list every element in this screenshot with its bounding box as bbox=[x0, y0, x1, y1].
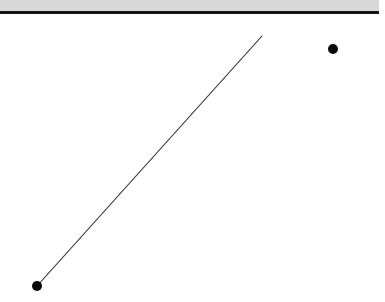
drawing-canvas[interactable] bbox=[0, 14, 385, 302]
diagonal-line-segment[interactable] bbox=[37, 36, 262, 286]
canvas-svg bbox=[0, 0, 385, 302]
app-root bbox=[0, 0, 385, 302]
anchor-point-lower-left[interactable] bbox=[32, 281, 42, 291]
isolated-point-upper-right[interactable] bbox=[328, 44, 338, 54]
